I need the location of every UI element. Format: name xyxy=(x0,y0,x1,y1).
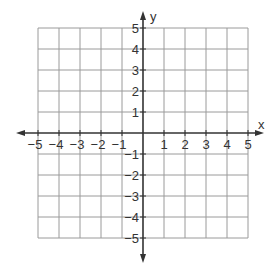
x-tick-label: −3 xyxy=(70,137,85,152)
y-tick-label: −3 xyxy=(124,189,139,204)
x-tick-label: −5 xyxy=(28,137,43,152)
y-axis-label: y xyxy=(150,9,157,24)
y-tick-label: −4 xyxy=(124,210,139,225)
arrow-left-icon xyxy=(16,130,25,136)
coordinate-plane: −5−4−3−2−112345−5−4−3−2−112345 x y xyxy=(0,0,279,270)
arrow-down-icon xyxy=(140,254,146,263)
y-tick-label: −1 xyxy=(124,147,139,162)
x-tick-label: −4 xyxy=(49,137,64,152)
x-axis-label: x xyxy=(258,117,265,132)
x-tick-label: 1 xyxy=(160,137,167,152)
y-tick-label: 5 xyxy=(132,21,139,36)
x-tick-label: 2 xyxy=(181,137,188,152)
x-tick-label: 3 xyxy=(202,137,209,152)
arrow-up-icon xyxy=(140,11,146,20)
y-tick-label: 1 xyxy=(132,105,139,120)
y-tick-label: 2 xyxy=(132,84,139,99)
x-tick-label: 4 xyxy=(223,137,230,152)
y-tick-label: −2 xyxy=(124,168,139,183)
y-tick-label: 3 xyxy=(132,63,139,78)
y-tick-label: −5 xyxy=(124,231,139,246)
x-tick-label: 5 xyxy=(244,137,251,152)
y-tick-label: 4 xyxy=(132,42,139,57)
x-tick-label: −2 xyxy=(91,137,106,152)
